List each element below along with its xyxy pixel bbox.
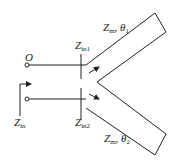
- y-junction-diagram: [0, 0, 181, 162]
- branch1-label: Zm, θ1: [103, 22, 129, 35]
- zin1-label: Zin1: [75, 40, 90, 53]
- port-terminal-bottom: [25, 97, 29, 101]
- port-terminal-top: [25, 63, 29, 67]
- port-label: O: [25, 52, 33, 63]
- zin-label: Zin: [14, 117, 26, 130]
- junction-stub-top: [81, 65, 86, 78]
- branch2-label: Zm, θ2: [104, 133, 130, 146]
- arrow-upper-branch: [89, 67, 99, 73]
- arrow-lower-branch: [89, 94, 99, 99]
- zin2-label: Zin2: [75, 117, 90, 130]
